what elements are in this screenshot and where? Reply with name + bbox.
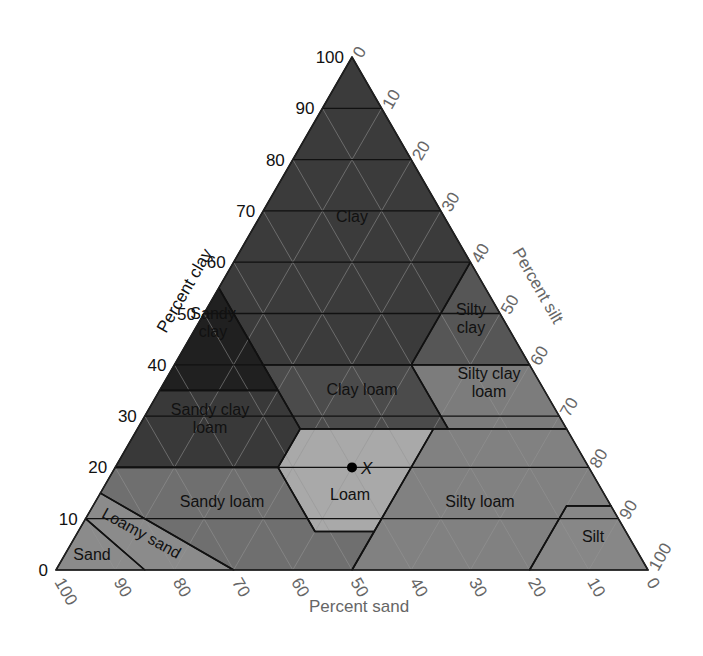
sand-tick: 100 <box>51 575 82 609</box>
sand-tick: 10 <box>583 575 609 601</box>
clay-tick: 30 <box>118 407 137 426</box>
region-label: Sandy loam <box>180 493 265 510</box>
clay-tick: 0 <box>39 561 48 580</box>
sand-tick: 90 <box>110 575 136 601</box>
region-label: Sand <box>73 546 110 563</box>
soil-texture-triangle: ClaySandyclaySiltyclaySandy clayloamClay… <box>0 0 703 656</box>
clay-tick: 80 <box>266 151 285 170</box>
sand-tick: 30 <box>465 575 491 601</box>
region-label: Siltyclay <box>456 301 486 336</box>
sand-tick: 20 <box>524 575 550 601</box>
region-label: Clay loam <box>326 381 397 398</box>
clay-tick: 20 <box>88 458 107 477</box>
sand-tick: 80 <box>169 575 195 601</box>
region-label: Loam <box>330 486 370 503</box>
clay-tick: 70 <box>236 202 255 221</box>
region-label: Silt <box>582 528 605 545</box>
sand-tick: 40 <box>406 575 432 601</box>
sample-point <box>347 462 357 472</box>
sand-tick: 0 <box>643 575 664 593</box>
region-label: Clay <box>336 208 368 225</box>
clay-tick: 100 <box>316 48 344 67</box>
region-label: Silty loam <box>445 493 514 510</box>
silt-tick: 100 <box>645 540 676 574</box>
sample-point-label: X <box>360 459 373 478</box>
silt-axis-title: Percent silt <box>509 245 568 328</box>
clay-tick: 40 <box>147 356 166 375</box>
sand-axis-title: Percent sand <box>309 597 409 616</box>
sand-tick: 70 <box>228 575 254 601</box>
clay-tick: 90 <box>295 99 314 118</box>
clay-tick: 10 <box>59 510 78 529</box>
